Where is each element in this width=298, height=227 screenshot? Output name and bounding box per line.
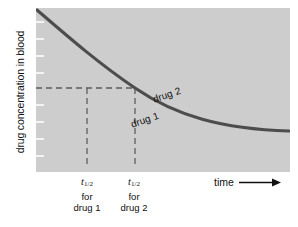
halflife-annotation-drug-2: t1/2 for drug 2 [103,176,165,214]
x-axis-title: time [214,176,234,188]
y-axis-title: drug concentration in blood [12,8,28,176]
halflife-drugname-drug-2: drug 2 [103,202,165,214]
halflife-subscript-drug-2: 1/2 [131,180,140,188]
x-axis-label-group: time [214,176,281,188]
drug-concentration-figure: drug concentration in blood [0,0,298,227]
halflife-subscript-drug-1: 1/2 [84,180,93,188]
time-arrow-icon [239,178,281,187]
y-axis-tick-marks [36,22,44,156]
halflife-for-drug-2: for [103,191,165,203]
drug-concentration-curve [37,10,289,131]
halflife-symbol-drug-2: t1/2 [103,176,165,191]
